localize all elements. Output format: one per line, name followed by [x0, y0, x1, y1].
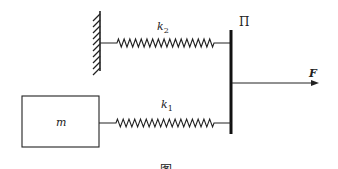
- wall-hatch-mark: [93, 44, 100, 51]
- spring-k1-label: k1: [161, 98, 173, 113]
- figure-caption-partial: 图: [160, 163, 172, 169]
- mass-spring-diagram: k2 Π F m k1 图: [0, 0, 338, 169]
- wall-hatch-mark: [93, 38, 100, 45]
- mass-label: m: [56, 116, 66, 129]
- wall-hatch-mark: [93, 56, 100, 63]
- fixed-wall: [93, 11, 100, 75]
- wall-hatch-mark: [93, 14, 100, 21]
- spring-k2: [100, 39, 231, 47]
- wall-hatch-mark: [93, 26, 100, 33]
- plate-label: Π: [239, 15, 249, 29]
- wall-hatch-mark: [93, 62, 100, 69]
- wall-hatch-mark: [93, 68, 100, 75]
- force-arrow: [232, 80, 319, 86]
- wall-hatch-mark: [93, 20, 100, 27]
- spring-k2-label: k2: [157, 20, 169, 35]
- spring-k1: [99, 119, 231, 127]
- wall-hatch-mark: [93, 50, 100, 57]
- wall-hatch-mark: [93, 32, 100, 39]
- force-label: F: [308, 67, 318, 80]
